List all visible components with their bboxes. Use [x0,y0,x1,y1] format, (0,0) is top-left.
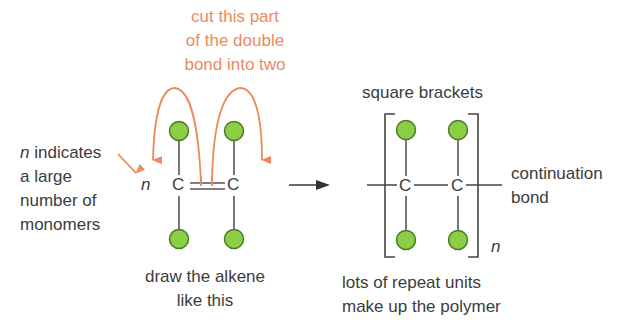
monomer-atom-bottom-right [225,230,244,249]
polymer-atom-top-left [397,121,416,140]
polymer-structure [367,114,502,257]
double-bond [190,183,225,189]
monomer-atom-top-right [225,122,244,141]
reaction-arrow-icon [289,180,330,190]
polymer-atom-top-right [449,121,468,140]
polymer-atom-bottom-right [449,231,468,250]
n-pointer-arrow-icon [118,154,136,173]
polymerisation-diagram: cut this part of the double bond into tw… [0,0,642,332]
monomer-atom-bottom-left [170,230,189,249]
polymer-atom-bottom-left [397,231,416,250]
monomer-structure [170,122,244,249]
diagram-graphics [0,0,642,332]
monomer-atom-top-left [170,122,189,141]
